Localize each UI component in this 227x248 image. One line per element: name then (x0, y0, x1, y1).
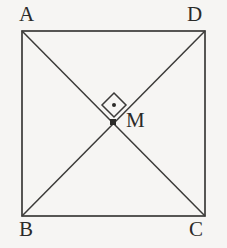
geometry-figure: A D B C M (0, 0, 227, 248)
geometry-canvas (0, 0, 227, 248)
vertex-label-c: C (189, 219, 203, 240)
vertex-label-d: D (187, 4, 202, 25)
intersection-point-marker (110, 119, 116, 125)
intersection-label-m: M (126, 110, 145, 131)
right-angle-dot-icon (112, 103, 116, 107)
vertex-label-b: B (19, 219, 33, 240)
vertex-label-a: A (19, 4, 34, 25)
